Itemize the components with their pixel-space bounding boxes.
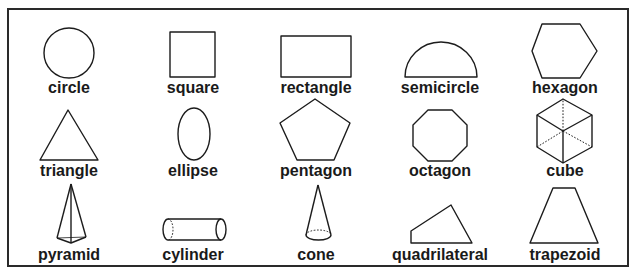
- square-label: square: [133, 79, 253, 97]
- semicircle-label: semicircle: [380, 79, 500, 97]
- ellipse-label: ellipse: [133, 162, 253, 180]
- pyramid-shape: [57, 184, 86, 243]
- square-shape: [170, 32, 215, 77]
- cone-shape: [306, 185, 331, 240]
- cylinder-label: cylinder: [133, 246, 253, 264]
- triangle-label: triangle: [9, 162, 129, 180]
- cube-shape: [537, 99, 592, 163]
- pyramid-label: pyramid: [9, 246, 129, 264]
- octagon-shape: [413, 110, 467, 161]
- quadrilateral-shape: [411, 205, 472, 243]
- hexagon-label: hexagon: [505, 79, 625, 97]
- rectangle-shape: [281, 36, 351, 77]
- pentagon-label: pentagon: [256, 162, 376, 180]
- triangle-shape: [40, 110, 98, 160]
- octagon-label: octagon: [380, 162, 500, 180]
- rectangle-label: rectangle: [256, 79, 376, 97]
- shapes-canvas: [0, 0, 636, 273]
- cylinder-shape: [163, 219, 226, 240]
- circle-label: circle: [9, 79, 129, 97]
- circle-shape: [44, 28, 94, 78]
- hexagon-shape: [532, 24, 597, 78]
- cube-label: cube: [505, 162, 625, 180]
- ellipse-shape: [178, 108, 210, 160]
- cone-label: cone: [256, 246, 376, 264]
- trapezoid-label: trapezoid: [505, 246, 625, 264]
- quadrilateral-label: quadrilateral: [380, 246, 500, 264]
- pentagon-shape: [280, 99, 350, 160]
- trapezoid-shape: [530, 188, 598, 243]
- semicircle-shape: [405, 42, 477, 77]
